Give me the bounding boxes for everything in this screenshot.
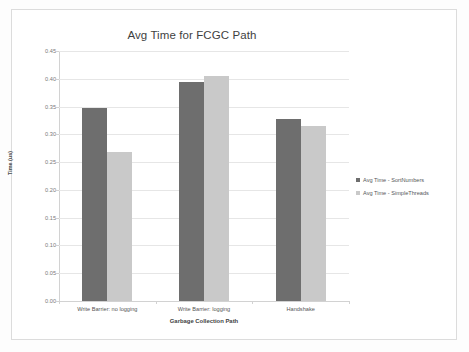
y-axis-title: Time (us)	[7, 151, 13, 175]
legend-swatch-icon	[356, 191, 360, 195]
bar[interactable]	[179, 82, 204, 301]
bar-group	[59, 51, 156, 301]
bar[interactable]	[107, 152, 132, 301]
x-tick-mark	[252, 301, 253, 304]
legend-label: Avg Time - SortNumbers	[363, 177, 424, 183]
x-tick-label: Handshake	[287, 306, 315, 312]
y-tick-label: 0.35	[30, 104, 56, 110]
bar-group	[156, 51, 253, 301]
y-tick-label: 0.15	[30, 215, 56, 221]
x-axis-title: Garbage Collection Path	[59, 318, 349, 324]
y-tick-label: 0.05	[30, 270, 56, 276]
x-tick-mark	[59, 301, 60, 304]
y-tick-label: 0.30	[30, 131, 56, 137]
y-axis-ticks: 0.000.050.100.150.200.250.300.350.400.45	[27, 51, 56, 301]
x-tick-mark	[156, 301, 157, 304]
bar-group	[252, 51, 349, 301]
plot-area	[59, 51, 349, 301]
bar[interactable]	[276, 119, 301, 301]
y-tick-label: 0.45	[30, 48, 56, 54]
legend-item[interactable]: Avg Time - SortNumbers	[356, 176, 452, 184]
page-background: Avg Time for FCGC Path Time (us) 0.000.0…	[0, 0, 469, 352]
y-tick-label: 0.10	[30, 242, 56, 248]
x-tick-label: Write Barrier: logging	[178, 306, 230, 312]
legend-item[interactable]: Avg Time - SimpleThreads	[356, 189, 452, 197]
y-tick-label: 0.25	[30, 159, 56, 165]
bar[interactable]	[204, 76, 229, 301]
y-tick-label: 0.20	[30, 187, 56, 193]
chart-title: Avg Time for FCGC Path	[52, 29, 332, 41]
y-tick-label: 0.00	[30, 298, 56, 304]
x-tick-label: Write Barrier: no logging	[77, 306, 137, 312]
legend-label: Avg Time - SimpleThreads	[363, 190, 429, 196]
chart-frame: Avg Time for FCGC Path Time (us) 0.000.0…	[11, 9, 457, 340]
x-tick-mark	[349, 301, 350, 304]
y-tick-label: 0.40	[30, 76, 56, 82]
chart-legend: Avg Time - SortNumbersAvg Time - SimpleT…	[356, 176, 452, 202]
legend-swatch-icon	[356, 178, 360, 182]
bar[interactable]	[82, 108, 107, 301]
bar[interactable]	[301, 126, 326, 301]
gridline	[59, 301, 349, 302]
bar-chart: Avg Time for FCGC Path Time (us) 0.000.0…	[12, 10, 458, 341]
